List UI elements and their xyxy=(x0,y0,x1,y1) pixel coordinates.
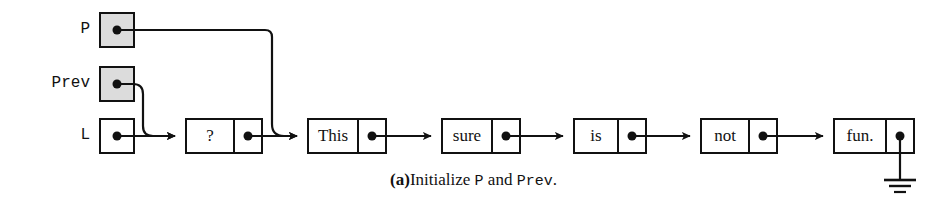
caption-mono-p: P xyxy=(475,173,484,190)
node-link xyxy=(885,120,913,152)
node-link-dot xyxy=(244,132,253,141)
node-link-dot xyxy=(896,132,905,141)
node-link xyxy=(491,120,519,152)
figure-caption: (a)Initialize P and Prev. xyxy=(0,170,947,192)
caption-text-middle: and xyxy=(484,170,517,189)
node-link xyxy=(748,120,776,152)
caption-tag: (a) xyxy=(390,170,410,189)
caption-text-after: . xyxy=(553,170,557,189)
pointer-dot-l xyxy=(113,132,122,141)
pointer-dot-prev xyxy=(113,80,122,89)
pointer-box-l xyxy=(99,118,135,154)
caption-mono-prev: Prev xyxy=(517,173,553,190)
list-node-0: ? xyxy=(185,118,263,154)
pointer-label-l: L xyxy=(18,127,90,143)
node-link xyxy=(617,120,645,152)
node-data: sure xyxy=(443,120,491,152)
node-link xyxy=(357,120,385,152)
list-node-5: fun. xyxy=(833,118,915,154)
node-data: This xyxy=(309,120,357,152)
node-data: not xyxy=(702,120,748,152)
pointer-dot-p xyxy=(113,26,122,35)
list-node-2: sure xyxy=(441,118,521,154)
linked-list-figure: P Prev L ? This sure is not xyxy=(0,0,947,202)
node-link-dot xyxy=(368,132,377,141)
list-node-1: This xyxy=(307,118,387,154)
node-data: ? xyxy=(187,120,233,152)
list-node-3: is xyxy=(573,118,647,154)
node-link-dot xyxy=(759,132,768,141)
node-link-dot xyxy=(502,132,511,141)
pointer-label-prev: Prev xyxy=(18,75,90,91)
caption-text-before: Initialize xyxy=(410,170,475,189)
pointer-box-p xyxy=(99,12,135,48)
node-data: fun. xyxy=(835,120,885,152)
node-link xyxy=(233,120,261,152)
list-node-4: not xyxy=(700,118,778,154)
pointer-label-p: P xyxy=(18,21,90,37)
node-data: is xyxy=(575,120,617,152)
pointer-box-prev xyxy=(99,66,135,102)
node-link-dot xyxy=(628,132,637,141)
